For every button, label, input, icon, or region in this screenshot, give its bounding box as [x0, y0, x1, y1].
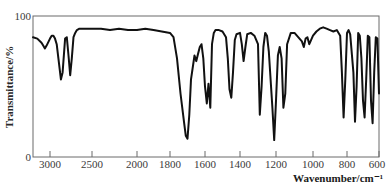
x-tick-label: 2000 — [126, 158, 149, 170]
x-axis-tick-labels: 30002500200018001600140012001000800600 — [39, 158, 386, 170]
y-axis-tick-labels: 0100 — [15, 10, 32, 163]
y-axis-title: Transmittance/% — [3, 46, 15, 128]
x-tick-label: 1400 — [229, 158, 252, 170]
ir-spectrum-chart: 30002500200018001600140012001000800600 0… — [0, 0, 388, 188]
x-axis-title: Wavenumber/cm⁻¹ — [293, 172, 383, 184]
spectrum-line — [33, 27, 379, 140]
x-tick-label: 3000 — [39, 158, 62, 170]
x-tick-label: 800 — [339, 158, 356, 170]
x-tick-label: 2500 — [81, 158, 104, 170]
x-tick-label: 1800 — [159, 158, 182, 170]
x-tick-label: 1600 — [194, 158, 217, 170]
y-tick-label: 0 — [26, 151, 32, 163]
x-axis-ticks — [50, 151, 379, 157]
x-tick-label: 1200 — [265, 158, 288, 170]
x-tick-label: 1000 — [302, 158, 325, 170]
y-tick-label: 100 — [15, 10, 32, 22]
x-tick-label: 600 — [369, 158, 386, 170]
